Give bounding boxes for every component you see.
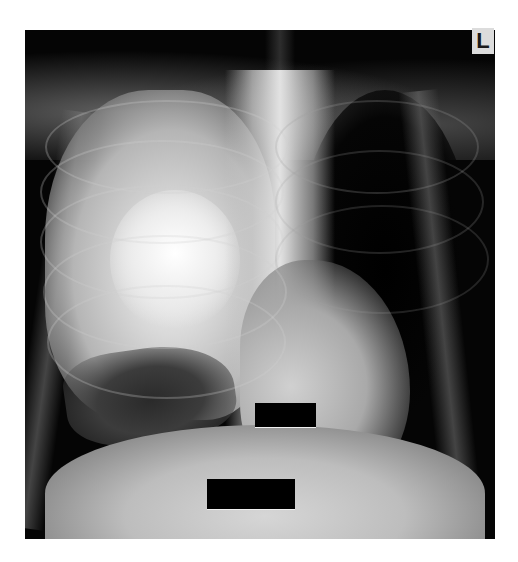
mediastinum (225, 70, 335, 530)
right-lower-lucency (59, 337, 241, 455)
right-hemithorax-opacity (45, 90, 275, 420)
shoulder-haze (25, 40, 495, 160)
left-chest-wall (398, 89, 482, 511)
rib-shadow (43, 235, 287, 349)
lower-redaction-box (207, 479, 295, 509)
chest-xray-image (25, 30, 495, 539)
left-lung-field (295, 90, 475, 450)
rib-shadow (275, 100, 479, 194)
rib-shadow (275, 205, 489, 314)
cardiac-silhouette (240, 260, 410, 490)
rib-shadow (47, 285, 286, 399)
rib-shadow (275, 150, 484, 254)
spine-shadow (265, 30, 295, 539)
dense-opacity (110, 190, 240, 330)
rib-shadow (40, 185, 284, 299)
laterality-marker-label: L (476, 28, 489, 54)
right-chest-wall (25, 109, 102, 530)
laterality-marker: L (472, 28, 494, 54)
rib-shadow (40, 140, 284, 244)
upper-redaction-box (255, 403, 316, 427)
rib-shadow (45, 100, 289, 194)
